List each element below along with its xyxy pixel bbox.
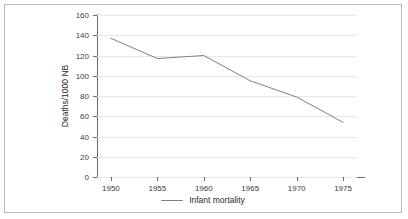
x-axis-tick	[297, 177, 298, 181]
x-axis-tick-label: 1970	[288, 184, 306, 193]
x-axis-tick-label: 1950	[102, 184, 120, 193]
y-axis-tick-label: 40	[80, 132, 89, 141]
x-axis-tick-label: 1955	[148, 184, 166, 193]
x-axis-tick-label: 1960	[195, 184, 213, 193]
x-axis-tick	[111, 177, 112, 181]
x-axis-tick	[204, 177, 205, 181]
x-axis-tick	[157, 177, 158, 181]
y-axis-tick-label: 120	[76, 51, 89, 60]
series-layer	[97, 15, 357, 177]
gridline	[97, 177, 357, 178]
x-axis-tick	[343, 177, 344, 181]
y-axis-title: Deaths/1000 NB	[60, 65, 70, 127]
y-axis-tick-label: 80	[80, 92, 89, 101]
y-axis-tick-label: 140	[76, 31, 89, 40]
x-axis-tick-label: 1975	[334, 184, 352, 193]
y-axis-tick-label: 60	[80, 112, 89, 121]
chart-figure: Deaths/1000 NB 020406080100120140160 195…	[4, 4, 402, 213]
plot-area: 020406080100120140160	[97, 15, 357, 177]
y-axis-tick-label: 0	[85, 173, 89, 182]
y-axis-tick-label: 160	[76, 11, 89, 20]
x-axis-tick	[250, 177, 251, 181]
y-axis-tick-label: 100	[76, 71, 89, 80]
y-axis-tick-label: 20	[80, 152, 89, 161]
x-axis-tick-label: 1965	[241, 184, 259, 193]
legend-item-label: Infant mortality	[189, 195, 245, 205]
legend: Infant mortality	[5, 195, 401, 205]
y-axis-tick	[93, 177, 97, 178]
legend-line-swatch	[161, 200, 183, 201]
series-line-infant-mortality	[111, 38, 343, 122]
